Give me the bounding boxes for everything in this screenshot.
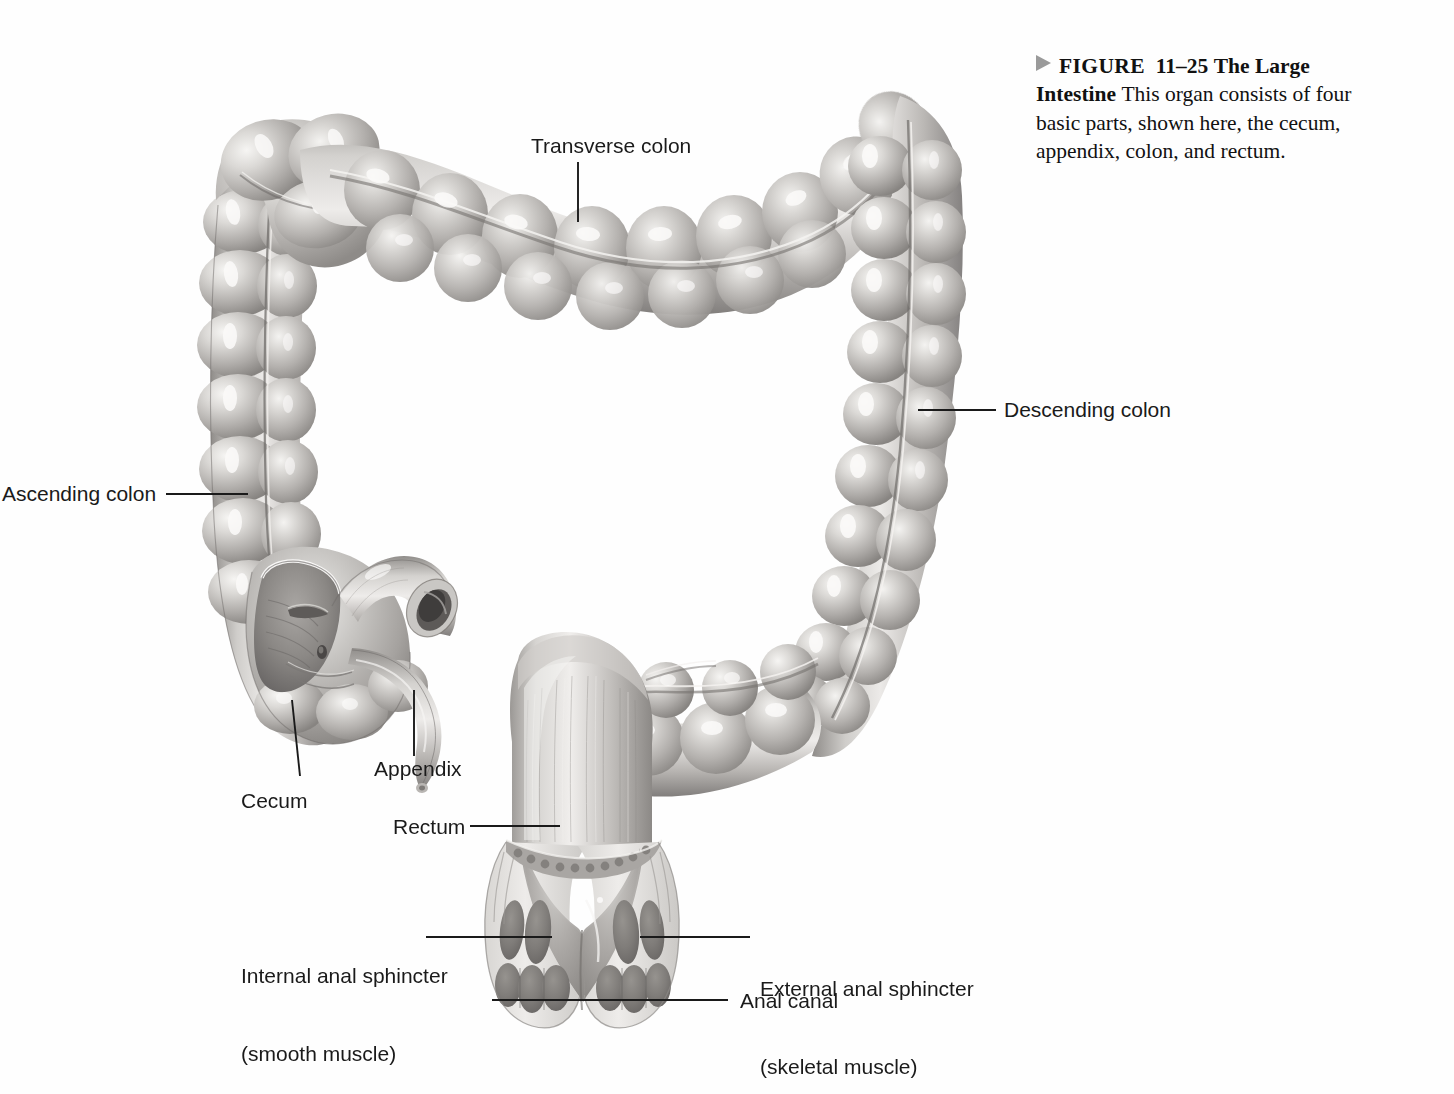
label-internal-anal-sphincter-line1: Internal anal sphincter (241, 963, 448, 989)
transverse-colon-graphic (300, 77, 944, 330)
right-triangle-icon (1036, 55, 1051, 71)
figure-illustration-stage: Transverse colon Descending colon Ascend… (0, 0, 1454, 1094)
figure-number: 11–25 (1156, 54, 1209, 78)
label-ascending-colon: Ascending colon (2, 481, 156, 506)
figure-number-prefix: FIGURE (1059, 54, 1145, 78)
figure-caption: FIGURE 11–25 The Large Intestine This or… (1036, 52, 1396, 166)
label-appendix: Appendix (374, 756, 462, 781)
label-external-anal-sphincter-line2: (skeletal muscle) (760, 1054, 974, 1080)
label-rectum: Rectum (393, 814, 465, 839)
label-descending-colon: Descending colon (1004, 397, 1171, 422)
label-transverse-colon: Transverse colon (531, 133, 691, 158)
label-internal-anal-sphincter-line2: (smooth muscle) (241, 1041, 448, 1067)
label-anal-canal: Anal canal (740, 988, 838, 1013)
label-internal-anal-sphincter: Internal anal sphincter (smooth muscle) (241, 911, 448, 1094)
label-cecum: Cecum (241, 788, 308, 813)
